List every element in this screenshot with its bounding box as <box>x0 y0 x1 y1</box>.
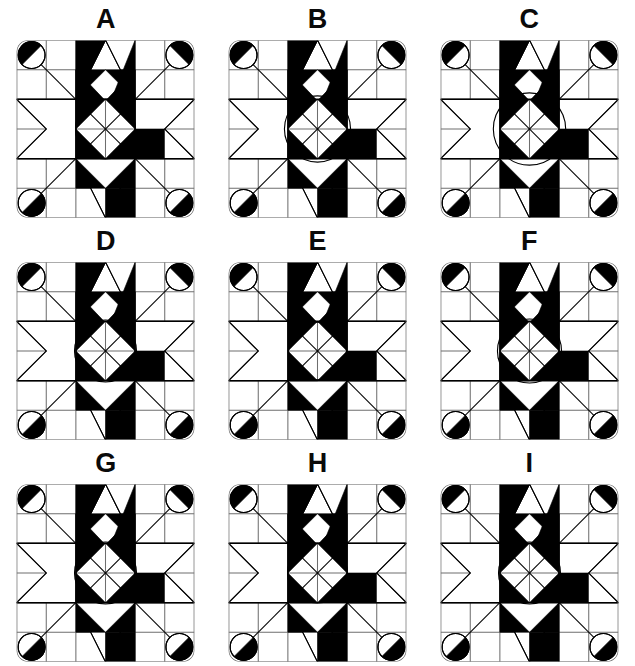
tile-container[interactable] <box>221 36 414 222</box>
pattern-tile <box>433 480 626 666</box>
tile-container[interactable] <box>9 36 202 222</box>
option-f[interactable]: F <box>423 222 635 444</box>
option-h[interactable]: H <box>212 444 424 666</box>
tile-container[interactable] <box>433 480 626 666</box>
pattern-tile <box>9 258 202 444</box>
pattern-tile <box>221 36 414 222</box>
tile-container[interactable] <box>9 480 202 666</box>
pattern-tile <box>433 258 626 444</box>
option-label: G <box>95 450 116 477</box>
tile-container[interactable] <box>221 258 414 444</box>
tile-artwork <box>436 258 622 444</box>
option-a[interactable]: A <box>0 0 212 222</box>
pattern-tile <box>221 258 414 444</box>
tile-artwork <box>13 480 199 666</box>
option-label: A <box>96 6 116 33</box>
option-label: F <box>521 228 538 255</box>
option-label: D <box>96 228 116 255</box>
pattern-tile <box>433 36 626 222</box>
tile-artwork <box>13 36 199 222</box>
option-label: I <box>525 450 533 477</box>
tile-container[interactable] <box>221 480 414 666</box>
option-e[interactable]: E <box>212 222 424 444</box>
tile-artwork <box>13 258 199 444</box>
option-b[interactable]: B <box>212 0 424 222</box>
pattern-tile <box>9 480 202 666</box>
option-g[interactable]: G <box>0 444 212 666</box>
tile-container[interactable] <box>433 36 626 222</box>
tile-artwork <box>225 480 411 666</box>
pattern-tile <box>221 480 414 666</box>
option-i[interactable]: I <box>423 444 635 666</box>
option-label: H <box>308 450 328 477</box>
tile-artwork <box>225 258 411 444</box>
pattern-tile <box>9 36 202 222</box>
option-label: E <box>308 228 326 255</box>
option-c[interactable]: C <box>423 0 635 222</box>
option-d[interactable]: D <box>0 222 212 444</box>
option-label: B <box>308 6 328 33</box>
tile-container[interactable] <box>433 258 626 444</box>
tile-artwork <box>225 36 411 222</box>
tile-artwork <box>436 36 622 222</box>
option-label: C <box>519 6 539 33</box>
tile-artwork <box>436 480 622 666</box>
tile-container[interactable] <box>9 258 202 444</box>
